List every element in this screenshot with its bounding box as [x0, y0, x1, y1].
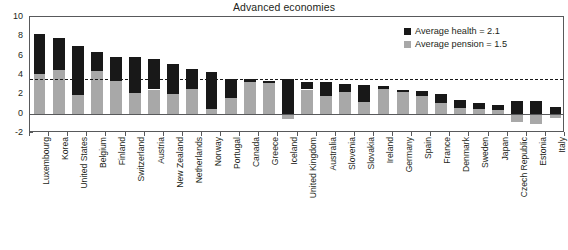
bar-segment-pension	[72, 95, 84, 113]
bar-segment-pension	[186, 89, 198, 114]
bar-segment-pension	[339, 92, 351, 113]
x-axis-label: Japan	[501, 137, 510, 160]
average-reference-line	[30, 79, 563, 80]
bar-segment-health	[530, 101, 542, 114]
bar-segment-health	[339, 84, 351, 93]
x-axis-label-text: France	[443, 137, 452, 164]
x-axis-label-text: United Kingdom	[309, 137, 318, 198]
bar-segment-pension	[378, 89, 390, 114]
x-axis-label-text: Czech Republic	[520, 137, 529, 197]
bar-segment-health	[263, 81, 275, 83]
x-axis-label: Norway	[214, 137, 223, 166]
y-axis-tick-label: 4	[18, 70, 23, 79]
bar-segment-pension	[511, 114, 523, 123]
y-axis-tick-label: -2	[15, 128, 23, 137]
x-axis-label: New Zealand	[176, 137, 185, 188]
x-axis-tick-mark	[201, 132, 202, 136]
x-axis-tick-mark	[488, 132, 489, 136]
x-axis-label-text: Denmark	[462, 137, 471, 172]
x-axis-tick-mark	[182, 132, 183, 136]
bar-segment-health	[511, 101, 523, 114]
x-axis-label: Denmark	[462, 137, 471, 172]
bar-segment-health	[320, 82, 332, 97]
x-axis-label-text: Estonia	[539, 137, 548, 166]
x-axis-label: Spain	[424, 137, 433, 159]
x-axis-label-text: Australia	[329, 137, 338, 170]
bar-segment-pension	[148, 90, 160, 114]
x-axis-label-text: Belgium	[99, 137, 108, 168]
bar-segment-health	[454, 100, 466, 108]
x-axis-tick-mark	[163, 132, 164, 136]
legend-swatch-pension-icon	[404, 41, 411, 48]
bar-segment-health	[492, 105, 504, 110]
x-axis-label: United States	[80, 137, 89, 189]
x-axis-label: Canada	[252, 137, 261, 167]
x-axis-label: Germany	[405, 137, 414, 172]
x-axis-tick-mark	[507, 132, 508, 136]
bar-segment-pension	[34, 74, 46, 114]
bar-segment-pension	[530, 114, 542, 125]
legend-label-health: Average health = 2.1	[415, 25, 500, 37]
x-axis-tick-mark	[468, 132, 469, 136]
x-axis-tick-mark	[220, 132, 221, 136]
bar-segment-pension	[397, 92, 409, 113]
x-axis-label-text: Norway	[214, 137, 223, 166]
x-axis-tick-mark	[144, 132, 145, 136]
x-axis-label: Australia	[329, 137, 338, 170]
bar-segment-health	[206, 72, 218, 109]
x-axis-label: Slovakia	[367, 137, 376, 169]
bar-segment-health	[129, 57, 141, 94]
x-axis-label: Netherlands	[195, 137, 204, 183]
x-axis-label: France	[443, 137, 452, 164]
x-axis-label-text: Ireland	[386, 137, 395, 163]
y-axis-labels: -20246810	[0, 16, 27, 132]
x-axis-tick-mark	[526, 132, 527, 136]
bottom-caption	[0, 243, 568, 250]
legend-swatch-health-icon	[404, 28, 411, 35]
x-axis-tick-mark	[29, 132, 30, 136]
bar-segment-health	[53, 38, 65, 70]
x-axis-label: Ireland	[386, 137, 395, 163]
x-axis-tick-mark	[335, 132, 336, 136]
x-axis-label-text: Austria	[157, 137, 166, 164]
chart-figure: Advanced economies -20246810 LuxembourgK…	[0, 0, 568, 250]
x-axis-label: Luxembourg	[42, 137, 51, 185]
bar-segment-health	[378, 86, 390, 89]
bar-segment-pension	[129, 93, 141, 113]
x-axis-label-text: Canada	[252, 137, 261, 167]
legend-item-health: Average health = 2.1	[404, 25, 507, 37]
x-axis-tick-mark	[277, 132, 278, 136]
x-axis-label: United Kingdom	[309, 137, 318, 198]
x-axis-label: Portugal	[233, 137, 242, 169]
zero-baseline	[30, 114, 563, 115]
x-axis-label-text: Slovakia	[367, 137, 376, 169]
chart-title: Advanced economies	[0, 1, 568, 13]
bar-segment-pension	[435, 103, 447, 114]
x-axis-labels: LuxembourgKoreaUnited StatesBelgiumFinla…	[29, 137, 564, 232]
x-axis-tick-mark	[411, 132, 412, 136]
bar-segment-pension	[225, 98, 237, 113]
y-axis-tick-label: 0	[18, 108, 23, 117]
bar-segment-pension	[110, 81, 122, 114]
x-axis-label-text: New Zealand	[176, 137, 185, 188]
x-axis-tick-mark	[48, 132, 49, 136]
x-axis-label-text: Portugal	[233, 137, 242, 169]
x-axis-label-text: Netherlands	[195, 137, 204, 183]
x-axis-tick-mark	[86, 132, 87, 136]
bar-segment-health	[148, 59, 160, 90]
x-axis-label-text: United States	[80, 137, 89, 189]
x-axis-label: Korea	[61, 137, 70, 160]
bar-segment-health	[91, 52, 103, 71]
x-axis-label-text: Germany	[405, 137, 414, 172]
bar-segment-pension	[320, 96, 332, 113]
x-axis-tick-mark	[564, 132, 565, 136]
x-axis-tick-mark	[373, 132, 374, 136]
legend-item-pension: Average pension = 1.5	[404, 38, 507, 50]
x-axis-tick-mark	[105, 132, 106, 136]
bar-segment-health	[550, 107, 562, 114]
bar-segment-health	[282, 79, 294, 114]
x-axis-label: Finland	[118, 137, 127, 165]
bar-segment-health	[416, 91, 428, 96]
bar-segment-pension	[167, 94, 179, 113]
x-axis-tick-mark	[125, 132, 126, 136]
